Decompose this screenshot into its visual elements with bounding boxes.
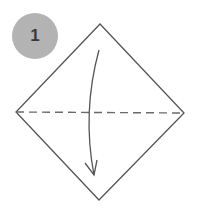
diagram-canvas xyxy=(0,0,197,214)
fold-diagram: 1 xyxy=(0,0,197,214)
valley-fold-line xyxy=(16,112,184,113)
